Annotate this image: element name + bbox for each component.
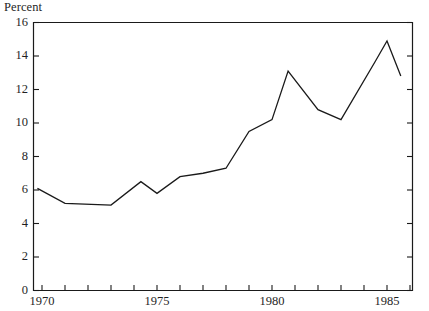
- y-tick-label: 2: [2, 250, 28, 263]
- y-tick-label: 8: [2, 150, 28, 163]
- data-series-percent: [37, 41, 400, 205]
- x-tick-label: 1980: [250, 295, 294, 308]
- y-tick-label: 6: [2, 183, 28, 196]
- y-tick-label: 12: [2, 83, 28, 96]
- chart-container: Percent 0246810121416 1970197519801985: [0, 0, 429, 311]
- line-chart-plot: [0, 0, 429, 311]
- y-tick-label: 4: [2, 217, 28, 230]
- y-tick-label: 10: [2, 116, 28, 129]
- x-tick-label: 1975: [135, 295, 179, 308]
- axis-frame: [34, 23, 413, 291]
- y-axis-ticks: [34, 23, 413, 291]
- y-tick-label: 14: [2, 49, 28, 62]
- x-tick-label: 1970: [20, 295, 64, 308]
- y-tick-label: 16: [2, 16, 28, 29]
- x-tick-label: 1985: [365, 295, 409, 308]
- x-axis-ticks: [42, 285, 410, 291]
